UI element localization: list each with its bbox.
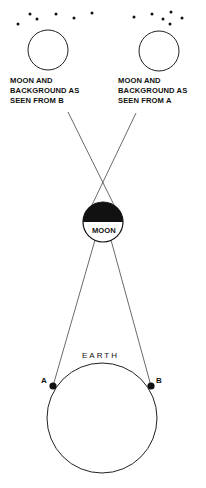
label-seen-from-b: MOON AND BACKGROUND AS SEEN FROM B — [10, 76, 79, 106]
observer-a-dot — [49, 382, 56, 389]
moon-icon — [83, 202, 123, 242]
stars-right — [133, 11, 184, 26]
sightline-a-upper — [92, 113, 136, 205]
sightline-b-lower — [111, 240, 151, 386]
moon-view-from-b — [28, 30, 68, 70]
moon-view-from-a — [139, 31, 179, 71]
stars-left — [17, 12, 94, 26]
moon-label: MOON — [92, 226, 116, 235]
point-a-label: A — [41, 376, 47, 385]
label-seen-from-a: MOON AND BACKGROUND AS SEEN FROM A — [118, 76, 187, 106]
point-b-label: B — [156, 376, 162, 385]
parallax-diagram — [0, 0, 206, 488]
observer-b-dot — [147, 382, 154, 389]
sightline-a-lower — [53, 240, 95, 386]
earth-label: EARTH — [82, 351, 119, 360]
earth-icon — [47, 363, 157, 473]
sightline-b-upper — [68, 112, 114, 205]
